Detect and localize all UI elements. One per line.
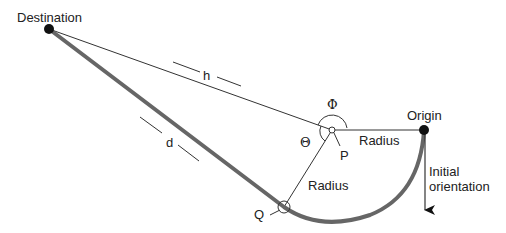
p-leader-line (334, 133, 340, 146)
theta-angle-arc (320, 126, 325, 141)
h-dimension-right (217, 77, 241, 86)
q-leader-line (270, 210, 280, 215)
d-dimension-right (178, 145, 199, 161)
h-label: h (203, 68, 210, 83)
initial-orientation-label-line1: Initial (429, 164, 459, 179)
radius-label-top: Radius (359, 133, 400, 148)
d-label: d (166, 135, 173, 150)
path-d (49, 29, 424, 222)
p-label: P (340, 148, 349, 163)
h-dimension-left (173, 62, 200, 72)
destination-dot (44, 24, 54, 34)
q-label: Q (254, 207, 264, 222)
path-geometry-diagram: Destination Origin h d Φ Θ P Q Radius Ra… (0, 0, 506, 233)
theta-label: Θ (300, 135, 311, 150)
destination-label: Destination (17, 10, 82, 25)
origin-dot (419, 125, 429, 135)
point-p-marker (329, 127, 335, 133)
line-h (49, 29, 332, 130)
phi-label: Φ (327, 97, 338, 112)
radius-label-bottom: Radius (308, 178, 349, 193)
d-dimension-left (140, 117, 162, 133)
origin-label: Origin (407, 108, 442, 123)
initial-orientation-label-line2: orientation (429, 179, 490, 194)
